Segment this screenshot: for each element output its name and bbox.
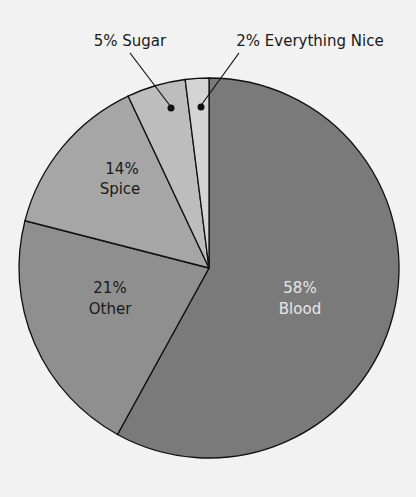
nice-callout-dot	[198, 104, 205, 111]
sugar-callout-dot	[168, 105, 175, 112]
label-other-name: Other	[89, 300, 132, 318]
label-spice-pct: 14%	[105, 160, 138, 178]
label-blood-pct: 58%	[283, 279, 316, 297]
pie-slices	[19, 78, 399, 458]
label-other-pct: 21%	[93, 279, 126, 297]
label-everything-nice: 2% Everything Nice	[236, 32, 383, 50]
label-spice-name: Spice	[100, 180, 141, 198]
pie-chart: 5% Sugar 2% Everything Nice 14% Spice 21…	[0, 0, 416, 497]
label-sugar: 5% Sugar	[94, 32, 167, 50]
label-blood-name: Blood	[279, 300, 321, 318]
